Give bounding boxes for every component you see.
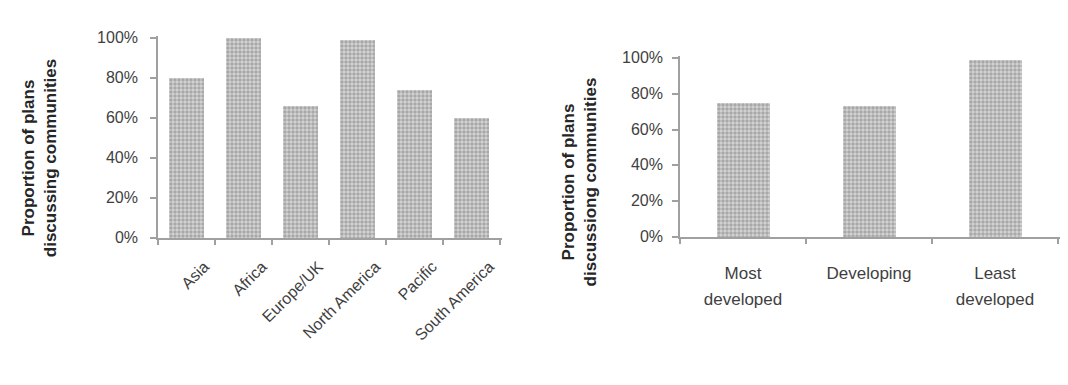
y-tick — [672, 236, 678, 238]
x-tick — [271, 240, 273, 245]
y-tick-label: 80% — [579, 84, 663, 104]
x-tick — [442, 240, 444, 245]
y-tick — [150, 37, 156, 39]
y-axis-title-line: Proportion of plans — [558, 78, 580, 287]
x-tick-label-pacific: Pacific — [395, 258, 441, 304]
y-tick-label: 80% — [54, 68, 138, 88]
y-tick — [672, 129, 678, 131]
y-tick-label: 20% — [579, 191, 663, 211]
x-tick-label-most-developed: Most developed — [681, 261, 805, 312]
y-tick-label: 40% — [54, 148, 138, 168]
y-tick — [150, 117, 156, 119]
y-tick — [150, 197, 156, 199]
y-axis-title-line: discussiong communities — [580, 78, 602, 287]
x-tick — [931, 239, 933, 244]
x-tick — [328, 240, 330, 245]
y-axis-line — [156, 36, 158, 240]
x-tick — [214, 240, 216, 245]
y-tick — [672, 200, 678, 202]
bar-north-america — [340, 40, 375, 238]
bar-south-america — [454, 118, 489, 238]
x-tick-label-africa: Africa — [229, 258, 271, 300]
bar-europe-uk — [283, 106, 318, 238]
x-tick — [679, 239, 681, 244]
bar-least-developed — [969, 60, 1022, 237]
y-tick — [150, 157, 156, 159]
bar-developing — [843, 106, 896, 237]
y-tick — [672, 164, 678, 166]
x-tick — [805, 239, 807, 244]
y-tick — [150, 237, 156, 239]
x-axis-line — [678, 237, 1060, 239]
plot-area-regions: 0%20%40%60%80%100%AsiaAfricaEurope/UKNor… — [158, 38, 500, 238]
y-tick-label: 0% — [54, 228, 138, 248]
y-tick-label: 60% — [54, 108, 138, 128]
y-tick-label: 20% — [54, 188, 138, 208]
bar-asia — [169, 78, 204, 238]
y-tick-label: 100% — [54, 28, 138, 48]
y-tick — [672, 57, 678, 59]
two-panel-bar-chart-figure: Proportion of plans discussing communiti… — [0, 0, 1068, 385]
y-tick-label: 60% — [579, 120, 663, 140]
bar-africa — [226, 38, 261, 238]
y-tick — [150, 77, 156, 79]
y-tick — [672, 93, 678, 95]
bar-most-developed — [717, 103, 770, 237]
y-tick-label: 40% — [579, 155, 663, 175]
x-tick — [499, 240, 501, 245]
x-tick-label-least-developed: Least developed — [933, 261, 1057, 312]
y-tick-label: 0% — [579, 227, 663, 247]
plot-area-devlevel: 0%20%40%60%80%100%Most developedDevelopi… — [680, 58, 1058, 237]
y-axis-line — [678, 56, 680, 239]
y-axis-title: Proportion of plans discussiong communit… — [558, 78, 602, 287]
x-tick — [385, 240, 387, 245]
x-tick-label-developing: Developing — [807, 261, 931, 287]
x-tick — [157, 240, 159, 245]
chart-by-region: Proportion of plans discussing communiti… — [0, 0, 534, 385]
bar-pacific — [397, 90, 432, 238]
y-tick-label: 100% — [579, 48, 663, 68]
x-tick-label-asia: Asia — [178, 258, 213, 293]
chart-by-development-level: Proportion of plans discussiong communit… — [534, 0, 1068, 385]
y-axis-title-line: Proportion of plans — [18, 59, 40, 257]
x-tick — [1057, 239, 1059, 244]
